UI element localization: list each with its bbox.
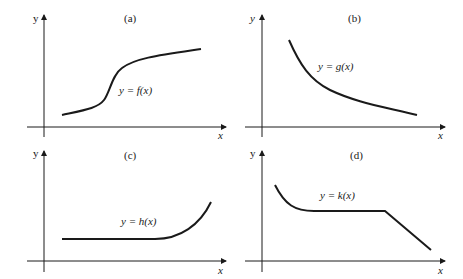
figure-canvas bbox=[0, 0, 463, 279]
panel-b-y-axis-label: y bbox=[250, 13, 255, 24]
panel-b-tag: (b) bbox=[348, 13, 361, 24]
panel-a-y-axis-label: y bbox=[33, 13, 39, 24]
panel-b-curve-label: y = g(x) bbox=[318, 61, 354, 72]
curve-g bbox=[289, 40, 417, 115]
panel-d-y-axis-label: y bbox=[250, 148, 256, 159]
panel-d-x-axis-label: x bbox=[438, 265, 443, 276]
panel-b-axes bbox=[245, 15, 445, 137]
panel-a-curve-label: y = f(x) bbox=[119, 85, 152, 96]
panel-d-tag: (d) bbox=[350, 150, 363, 161]
panel-c-tag: (c) bbox=[124, 150, 136, 161]
panel-c-x-axis-label: x bbox=[218, 265, 223, 276]
panel-c-y-axis-label: y bbox=[33, 148, 39, 159]
panel-a-axes bbox=[27, 15, 226, 137]
curve-f bbox=[62, 49, 201, 115]
panel-c-axes bbox=[27, 151, 226, 272]
panel-a-x-axis-label: x bbox=[218, 130, 223, 141]
panel-a-tag: (a) bbox=[124, 13, 136, 24]
panel-c-curve-label: y = h(x) bbox=[121, 216, 157, 227]
panel-b-x-axis-label: x bbox=[438, 130, 443, 141]
panel-d-curve-label: y = k(x) bbox=[320, 190, 355, 201]
